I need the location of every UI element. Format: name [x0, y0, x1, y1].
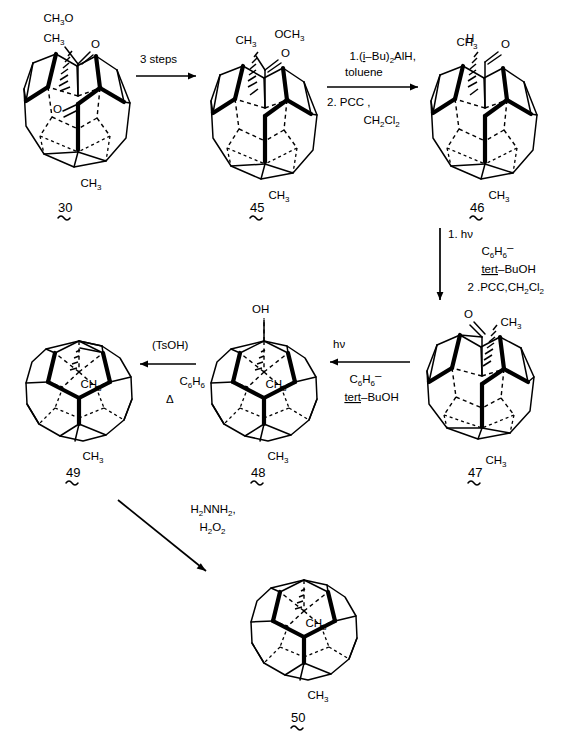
compound-45: CH3 OCH3 O CH3 45: [211, 28, 320, 220]
compound-47-label-carbonyl-o: O: [464, 308, 473, 320]
compound-46: CH3 H O CH3 46: [431, 32, 537, 220]
compound-47-cage: [427, 322, 534, 439]
arrow-49-to-50: H2NNH2, H2O2: [118, 500, 252, 571]
compound-30: CH3O CH3 O O CH3 30: [21, 12, 130, 220]
arrow-47-to-48: hν C6H6– tert–BuOH: [322, 338, 415, 403]
compound-45-number-squiggle: [250, 216, 262, 220]
compound-47-label-ch3: CH3: [478, 316, 537, 331]
compound-49-label-bottom-ch3: CH3: [60, 450, 119, 465]
arrow-45-to-46: 1.(i–Bu)2AlH, toluene 2. PCC , CH2Cl2: [327, 50, 432, 129]
arrow-47-to-48-below-line2: tert–BuOH: [322, 391, 415, 403]
compound-50: CH3 CH3 50: [251, 580, 357, 730]
arrow-46-to-47-line1: 1. hν: [448, 228, 473, 240]
compound-50-label-bottom-ch3: CH3: [285, 689, 344, 704]
compound-49: CH3 CH3 49: [26, 341, 132, 485]
compound-46-cage: [431, 52, 537, 179]
compound-30-label-carbonyl-o: O: [91, 38, 100, 50]
compound-45-label-carbonyl-o: O: [281, 47, 290, 59]
arrow-45-to-46-line4: CH2Cl2: [341, 114, 416, 129]
compound-30-label-ch3o: CH3O: [21, 12, 89, 27]
compound-30-number: 30: [58, 200, 72, 215]
compound-48: OH CH3 CH3 48: [211, 303, 317, 485]
arrow-48-to-49-above: (TsOH): [152, 339, 189, 351]
arrow-45-to-46-line1: 1.(i–Bu)2AlH,: [327, 50, 432, 65]
reaction-scheme: CH3O CH3 O O CH3 30 3 steps: [0, 0, 587, 748]
compound-49-number: 49: [66, 465, 80, 480]
arrow-47-to-48-below-line1: C6H6–: [327, 369, 397, 388]
arrow-46-to-47-line3: tert–BuOH: [459, 263, 552, 275]
arrow-48-to-49-below-line2: Δ: [166, 393, 174, 405]
compound-45-number: 45: [250, 200, 264, 215]
compound-46-number: 46: [470, 200, 484, 215]
compound-47: O CH3 CH3 47: [427, 308, 537, 485]
arrow-46-to-47-line2: C6H6–: [459, 241, 529, 260]
compound-48-number-squiggle: [251, 481, 263, 485]
compound-47-number-squiggle: [468, 481, 480, 485]
compound-48-label-bottom-ch3: CH3: [245, 450, 304, 465]
compound-50-number-squiggle: [291, 726, 303, 730]
compound-50-number: 50: [291, 710, 305, 725]
compound-48-label-oh: OH: [252, 303, 269, 315]
compound-30-label-bottom-ch3: CH3: [58, 177, 117, 192]
compound-30-number-squiggle: [58, 216, 70, 220]
arrow-49-to-50-line1: H2NNH2,: [168, 503, 252, 518]
compound-46-label-h: H: [466, 32, 474, 44]
arrow-46-to-47-line4: 2 .PCC,CH2Cl2: [445, 281, 560, 296]
compound-30-cage: [24, 47, 130, 167]
compound-45-cage: [211, 52, 317, 179]
arrow-45-to-46-line3: 2. PCC ,: [327, 96, 370, 108]
arrow-30-to-45: 3 steps: [136, 53, 196, 79]
arrow-45-to-46-line2: toluene: [345, 66, 383, 78]
arrow-47-to-48-above: hν: [333, 338, 345, 350]
arrow-48-to-49-below-line1: C6H6: [157, 375, 221, 390]
compound-46-label-carbonyl-o: O: [501, 38, 510, 50]
arrow-46-to-47: 1. hν C6H6– tert–BuOH 2 .PCC,CH2Cl2: [437, 228, 560, 300]
compound-48-number: 48: [251, 465, 265, 480]
compound-30-label-ch3: CH3: [21, 32, 80, 47]
compound-46-label-ch3: CH3: [434, 36, 493, 51]
arrow-49-to-50-line2: H2O2: [177, 521, 242, 536]
arrow-48-to-49: (TsOH) C6H6 Δ: [140, 339, 221, 405]
compound-49-number-squiggle: [66, 481, 78, 485]
arrow-30-to-45-label: 3 steps: [140, 53, 177, 65]
compound-46-number-squiggle: [470, 216, 482, 220]
compound-30-label-internal-o: O: [53, 103, 62, 115]
compound-47-number: 47: [468, 465, 482, 480]
